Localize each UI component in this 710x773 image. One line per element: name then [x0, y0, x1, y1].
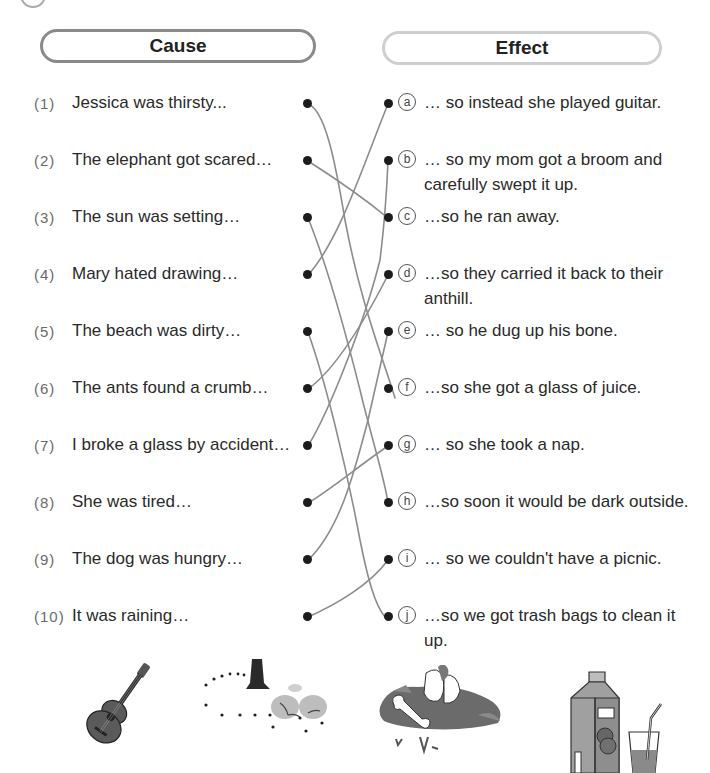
effect-letter-badge: d	[398, 264, 416, 282]
cause-text: Mary hated drawing…	[72, 264, 238, 284]
effect-item: f …so she got a glass of juice.	[398, 375, 698, 400]
cause-number: (2)	[34, 152, 72, 169]
effect-letter-badge: h	[398, 492, 416, 510]
effect-letter-badge: b	[398, 150, 416, 168]
cause-header: Cause	[40, 29, 316, 63]
cause-text: It was raining…	[72, 606, 189, 626]
cause-text: The sun was setting…	[72, 207, 240, 227]
cause-number: (6)	[34, 380, 72, 397]
juice-carton-and-glass-illustration	[565, 670, 675, 773]
effect-dot[interactable]	[384, 99, 393, 108]
cause-item: (4) Mary hated drawing…	[34, 262, 238, 286]
effect-text: … so he dug up his bone.	[424, 318, 698, 343]
effect-item: c …so he ran away.	[398, 204, 698, 229]
cause-number: (9)	[34, 551, 72, 568]
effect-letter-badge: f	[398, 378, 416, 396]
effect-item: b … so my mom got a broom and carefully …	[398, 147, 698, 197]
cause-dot[interactable]	[303, 498, 312, 507]
effect-text: …so she got a glass of juice.	[424, 375, 698, 400]
cause-text: The beach was dirty…	[72, 321, 241, 341]
match-line-6-d	[308, 275, 388, 389]
effect-letter-badge: i	[398, 549, 416, 567]
corner-decoration	[20, 0, 46, 8]
match-line-1-f	[308, 104, 395, 398]
cause-number: (5)	[34, 323, 72, 340]
effect-dot[interactable]	[384, 384, 393, 393]
effect-dot[interactable]	[384, 441, 393, 450]
effect-letter-badge: j	[398, 606, 416, 624]
ants-and-crumb-illustration	[200, 655, 330, 735]
cause-number: (7)	[34, 437, 72, 454]
effect-text: …so we got trash bags to clean it up.	[424, 603, 698, 653]
effect-text: …so soon it would be dark outside.	[424, 489, 698, 514]
match-line-5-j	[308, 332, 385, 617]
effect-header-label: Effect	[496, 37, 549, 59]
cause-text: I broke a glass by accident…	[72, 435, 290, 455]
cause-text: The dog was hungry…	[72, 549, 243, 569]
match-line-4-a	[308, 104, 388, 275]
effect-text: … so instead she played guitar.	[424, 90, 698, 115]
effect-dot[interactable]	[384, 555, 393, 564]
cause-dot[interactable]	[303, 441, 312, 450]
cause-item: (7) I broke a glass by accident…	[34, 433, 290, 457]
effect-item: a … so instead she played guitar.	[398, 90, 698, 115]
cause-item: (10) It was raining…	[34, 604, 189, 628]
match-line-9-e	[308, 332, 388, 560]
cause-number: (4)	[34, 266, 72, 283]
cause-number: (1)	[34, 95, 72, 112]
cause-dot[interactable]	[303, 99, 312, 108]
match-line-3-h	[308, 218, 388, 503]
match-line-7-b	[308, 161, 388, 446]
effect-text: … so we couldn't have a picnic.	[424, 546, 698, 571]
cause-number: (8)	[34, 494, 72, 511]
cause-text: The ants found a crumb…	[72, 378, 269, 398]
effect-item: e … so he dug up his bone.	[398, 318, 698, 343]
effect-dot[interactable]	[384, 498, 393, 507]
cause-item: (8) She was tired…	[34, 490, 192, 514]
cause-dot[interactable]	[303, 327, 312, 336]
effect-dot[interactable]	[384, 213, 393, 222]
cause-text: The elephant got scared…	[72, 150, 272, 170]
effect-item: i … so we couldn't have a picnic.	[398, 546, 698, 571]
cause-item: (1) Jessica was thirsty...	[34, 91, 227, 115]
effect-dot[interactable]	[384, 270, 393, 279]
cause-item: (2) The elephant got scared…	[34, 148, 272, 172]
effect-text: … so my mom got a broom and carefully sw…	[424, 147, 698, 197]
cause-header-label: Cause	[149, 35, 206, 57]
match-line-10-i	[308, 560, 388, 617]
effect-letter-badge: e	[398, 321, 416, 339]
cause-text: She was tired…	[72, 492, 192, 512]
effect-text: …so they carried it back to their anthil…	[424, 261, 698, 311]
cause-dot[interactable]	[303, 555, 312, 564]
effect-dot[interactable]	[384, 156, 393, 165]
effect-item: j …so we got trash bags to clean it up.	[398, 603, 698, 653]
effect-dot[interactable]	[384, 327, 393, 336]
effect-header: Effect	[382, 31, 662, 65]
effect-letter-badge: g	[398, 435, 416, 453]
cause-dot[interactable]	[303, 612, 312, 621]
guitar-illustration	[78, 655, 158, 750]
effect-text: …so he ran away.	[424, 204, 698, 229]
cause-text: Jessica was thirsty...	[72, 93, 227, 113]
effect-item: h …so soon it would be dark outside.	[398, 489, 698, 514]
cause-number: (10)	[34, 608, 72, 625]
cause-item: (6) The ants found a crumb…	[34, 376, 269, 400]
effect-letter-badge: c	[398, 207, 416, 225]
dog-digging-bone-illustration	[378, 665, 508, 755]
cause-number: (3)	[34, 209, 72, 226]
match-line-8-g	[308, 446, 388, 503]
cause-dot[interactable]	[303, 270, 312, 279]
effect-item: g … so she took a nap.	[398, 432, 698, 457]
cause-dot[interactable]	[303, 156, 312, 165]
cause-dot[interactable]	[303, 213, 312, 222]
cause-dot[interactable]	[303, 384, 312, 393]
match-line-2-c	[308, 161, 388, 218]
cause-item: (9) The dog was hungry…	[34, 547, 243, 571]
effect-item: d …so they carried it back to their anth…	[398, 261, 698, 311]
effect-text: … so she took a nap.	[424, 432, 698, 457]
effect-dot[interactable]	[384, 612, 393, 621]
cause-item: (3) The sun was setting…	[34, 205, 240, 229]
effect-letter-badge: a	[398, 93, 416, 111]
cause-item: (5) The beach was dirty…	[34, 319, 241, 343]
